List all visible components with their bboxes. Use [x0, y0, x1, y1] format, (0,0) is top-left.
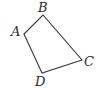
quadrilateral-abcd — [24, 15, 82, 73]
vertex-label-c: C — [84, 54, 94, 69]
vertex-label-b: B — [37, 0, 48, 15]
vertex-label-d: D — [34, 74, 46, 89]
quadrilateral-diagram: A B C D — [0, 0, 100, 99]
vertex-label-a: A — [10, 24, 20, 39]
